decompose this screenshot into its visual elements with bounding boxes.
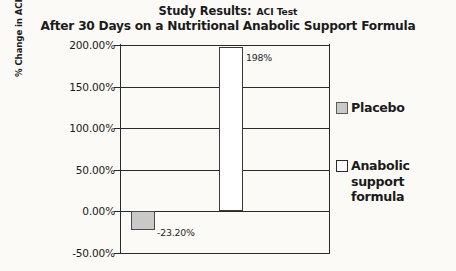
data-label-placebo: -23.20%: [157, 227, 195, 238]
chart-title-subtitle: ACI Test: [257, 6, 298, 17]
legend-item-placebo[interactable]: Placebo: [336, 100, 405, 116]
y-axis-tick-label-0: 0.00%: [35, 205, 115, 217]
legend-label-placebo: Placebo: [351, 100, 405, 116]
legend-label-line-3: formula: [351, 189, 410, 205]
y-axis-tick-label-100: 100.00%: [35, 122, 115, 134]
y-axis-title: % Change in ACI from Baseline: [14, 0, 28, 77]
y-axis-tick-label-50: 50.00%: [35, 164, 115, 176]
y-axis-line: [120, 44, 121, 254]
chart-title-main: Study Results:: [159, 4, 252, 18]
chart-title: Study Results: ACI Test After 30 Days on…: [0, 1, 456, 34]
bar-anabolic-support-formula: [219, 47, 243, 211]
gray-square-swatch-icon: [336, 102, 348, 114]
y-axis-title-label: % Change in ACI from Baseline: [14, 0, 24, 77]
y-axis-tick-label-neg50: -50.00%: [35, 247, 115, 259]
chart-screenshot: Study Results: ACI Test After 30 Days on…: [0, 0, 456, 271]
y-axis-tick-label-150: 150.00%: [35, 81, 115, 93]
plot-right-border: [329, 44, 330, 254]
plot-area: [120, 45, 330, 253]
y-axis-tick-label-200: 200.00%: [35, 39, 115, 51]
chart-title-line-1: Study Results: ACI Test: [0, 1, 456, 19]
legend-label-anabolic-support-formula: Anabolic support formula: [351, 158, 410, 205]
data-label-anabolic: 198%: [246, 52, 272, 63]
legend-label-line-1: Anabolic: [351, 158, 410, 174]
legend-item-anabolic-support-formula[interactable]: Anabolic support formula: [336, 158, 410, 205]
gridline-200: [120, 45, 330, 46]
chart-title-line-2: After 30 Days on a Nutritional Anabolic …: [0, 20, 456, 34]
legend-label-line-2: support: [351, 174, 410, 190]
bar-placebo: [131, 211, 155, 230]
white-square-swatch-icon: [336, 160, 348, 172]
gridline-neg50: [120, 253, 330, 254]
